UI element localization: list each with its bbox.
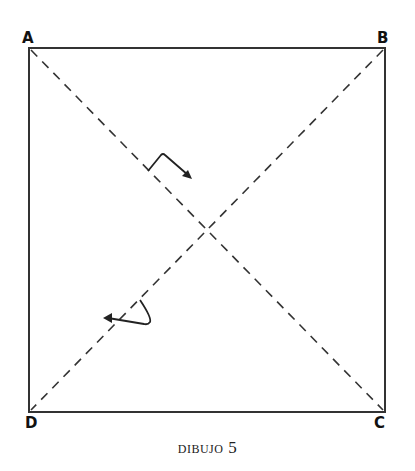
vertex-label-d: D <box>25 416 37 431</box>
caption-number: 5 <box>228 438 237 457</box>
caption-word: DIBUJO <box>178 438 224 457</box>
diagram-canvas <box>0 0 415 471</box>
figure-caption: DIBUJO 5 <box>0 438 415 458</box>
square-outline <box>29 48 385 412</box>
fold-arrow-upper-icon <box>148 154 192 179</box>
fold-arrow-lower-icon <box>103 300 150 324</box>
vertex-label-b: B <box>377 31 388 46</box>
vertex-label-a: A <box>22 31 34 46</box>
vertex-label-c: C <box>374 416 385 431</box>
